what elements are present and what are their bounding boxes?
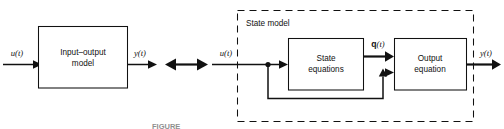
equivalence-double-arrow-icon [165, 59, 208, 71]
output-equation-label-line1: Output [418, 54, 443, 63]
figure-block-diagram: u(t) Input–output model y(t) State model [0, 0, 504, 129]
state-vector-argument: (t) [377, 39, 385, 49]
state-model-group: State model u(t) State equations [212, 11, 501, 122]
input-output-model-label-line2: model [72, 59, 94, 68]
state-equations-label-line2: equations [308, 65, 344, 74]
state-vector-arrow [363, 51, 394, 62]
figure-caption: FIGURE [152, 122, 180, 129]
figure-caption-group: FIGURE [152, 122, 180, 129]
io-input-arrow [3, 60, 42, 68]
input-output-model-group: u(t) Input–output model y(t) [3, 27, 157, 89]
input-output-model-label-line1: Input–output [60, 48, 106, 57]
io-output-arrow [127, 60, 157, 68]
state-model-output-arrow [466, 59, 501, 70]
state-model-input-arrow [212, 60, 288, 68]
input-output-model-box [39, 27, 128, 89]
output-equation-label-line2: equation [414, 65, 446, 74]
state-model-container-label: State model [246, 19, 290, 28]
state-vector-label: q(t) [371, 39, 384, 49]
io-output-label: y(t) [133, 48, 146, 58]
diagram-canvas: u(t) Input–output model y(t) State model [0, 0, 504, 129]
state-model-output-label: y(t) [479, 48, 492, 58]
state-equations-label-line1: State [316, 54, 336, 63]
io-input-label: u(t) [11, 48, 24, 58]
state-model-input-label: u(t) [220, 48, 233, 58]
